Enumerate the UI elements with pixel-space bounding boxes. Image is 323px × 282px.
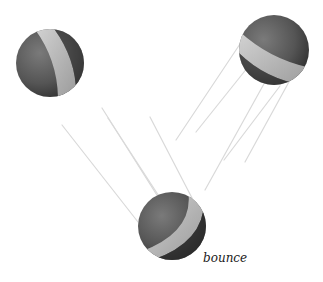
ball-right: [238, 15, 312, 90]
ball-bottom: [138, 190, 206, 262]
bounce-illustration: bounce: [0, 0, 323, 282]
bounce-caption: bounce: [203, 251, 247, 265]
ball-left: [16, 26, 90, 100]
illustration-canvas: [0, 0, 323, 282]
